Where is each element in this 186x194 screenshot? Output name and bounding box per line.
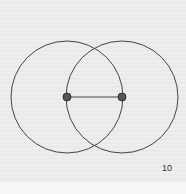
left-center-point: [63, 93, 71, 101]
figure-number: 10: [162, 163, 172, 173]
diagram-canvas: [0, 0, 186, 194]
right-center-point: [118, 93, 126, 101]
